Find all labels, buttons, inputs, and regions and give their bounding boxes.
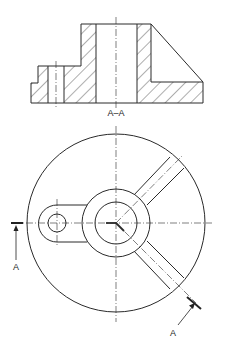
rib-upper: [133, 157, 184, 205]
section-label: A–A: [107, 108, 124, 118]
technical-drawing: A–A A: [0, 0, 226, 353]
centerline-rib-lower: [116, 223, 196, 303]
rib-lower: [133, 241, 184, 289]
cut-marker-left: [11, 223, 23, 260]
cut-label-left: A: [13, 262, 19, 272]
cut-label-right: A: [170, 328, 176, 338]
cut-marker-right: [178, 297, 201, 325]
lug: [39, 205, 88, 242]
plan-view: [14, 126, 212, 322]
section-view: [31, 17, 203, 108]
hatched-material: [31, 24, 203, 103]
